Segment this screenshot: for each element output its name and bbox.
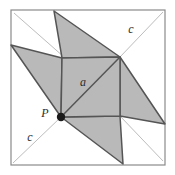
- label-a: a: [80, 75, 86, 89]
- label-c-upper-right: c: [128, 22, 134, 36]
- pinwheel-diagram: a c c P: [0, 0, 175, 175]
- label-p: P: [40, 106, 49, 120]
- figure-container: a c c P: [0, 0, 175, 175]
- label-c-lower-left: c: [27, 130, 33, 144]
- point-p-marker: [57, 113, 65, 121]
